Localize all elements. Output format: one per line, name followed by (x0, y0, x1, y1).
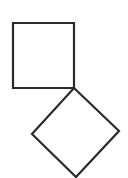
diagram-canvas (0, 0, 128, 178)
square-shape (13, 23, 74, 88)
diamond-shape (32, 88, 119, 177)
